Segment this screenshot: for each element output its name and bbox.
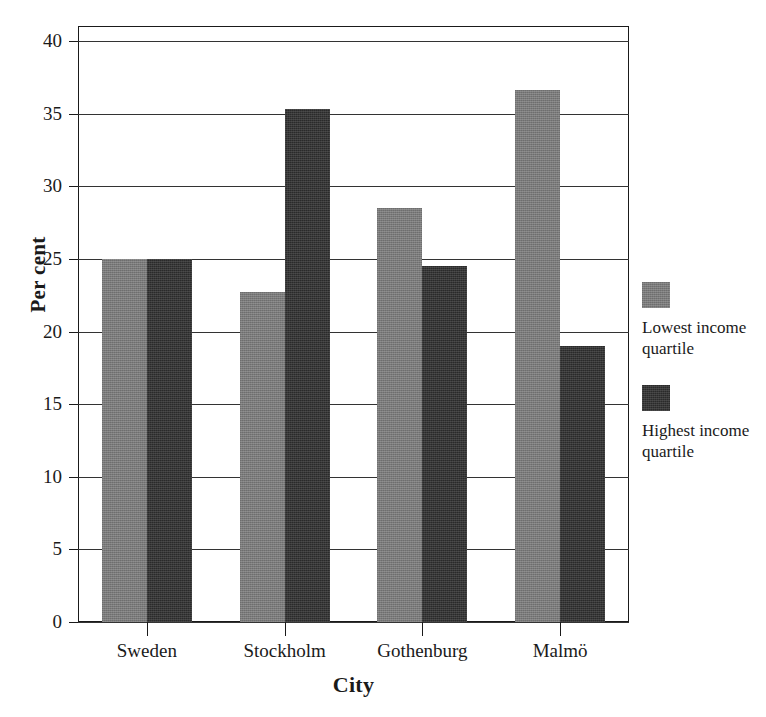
- bar-stockholm-highest: [285, 109, 330, 622]
- bar-sweden-lowest: [102, 259, 147, 622]
- y-tick-label-35: 35: [18, 104, 62, 123]
- y-tick-5: [69, 549, 78, 550]
- y-tick-label-40: 40: [18, 31, 62, 50]
- y-tick-40: [69, 41, 78, 42]
- x-tick-2: [422, 622, 423, 636]
- legend-label-highest-line2: quartile: [642, 441, 766, 462]
- x-tick-3: [560, 622, 561, 636]
- y-tick-label-20: 20: [18, 322, 62, 341]
- bar-stockholm-lowest: [240, 292, 285, 622]
- bar-gothenburg-highest: [422, 266, 467, 622]
- legend-label-lowest-line1: Lowest income: [642, 317, 766, 338]
- y-tick-label-5: 5: [18, 539, 62, 558]
- y-tick-35: [69, 114, 78, 115]
- legend-swatch-lowest-icon: [642, 282, 670, 308]
- chart-legend: Lowest income quartile Highest income qu…: [642, 282, 766, 488]
- legend-entry-highest: Highest income quartile: [642, 385, 766, 462]
- bars-layer: [78, 26, 629, 622]
- y-tick-label-15: 15: [18, 394, 62, 413]
- x-axis-title: City: [78, 672, 629, 698]
- y-tick-label-10: 10: [18, 467, 62, 486]
- legend-label-lowest-line2: quartile: [642, 338, 766, 359]
- y-tick-30: [69, 186, 78, 187]
- legend-entry-lowest: Lowest income quartile: [642, 282, 766, 359]
- y-tick-label-30: 30: [18, 176, 62, 195]
- y-tick-label-0: 0: [18, 612, 62, 631]
- y-tick-25: [69, 259, 78, 260]
- x-tick-0: [147, 622, 148, 636]
- bar-malm-lowest: [515, 90, 560, 622]
- y-tick-15: [69, 404, 78, 405]
- x-axis-baseline: [78, 622, 629, 623]
- legend-label-highest-line1: Highest income: [642, 420, 766, 441]
- legend-swatch-highest-icon: [642, 385, 670, 411]
- y-tick-20: [69, 332, 78, 333]
- y-tick-10: [69, 477, 78, 478]
- bar-malm-highest: [560, 346, 605, 622]
- bar-gothenburg-lowest: [377, 208, 422, 622]
- x-tick-label-3: Malmö: [470, 640, 650, 662]
- x-tick-1: [285, 622, 286, 636]
- bar-chart-figure: Per cent 0510152025303540 SwedenStockhol…: [0, 0, 766, 717]
- y-tick-label-25: 25: [18, 249, 62, 268]
- y-tick-0: [69, 622, 78, 623]
- bar-sweden-highest: [147, 259, 192, 622]
